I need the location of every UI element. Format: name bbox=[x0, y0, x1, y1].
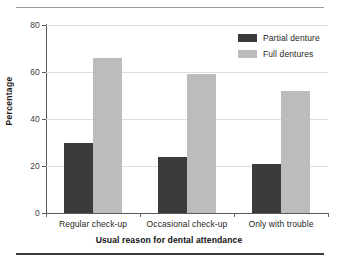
x-axis-line bbox=[46, 213, 329, 214]
bar-full-2 bbox=[281, 91, 310, 213]
y-tick-label-wrap: 20 bbox=[0, 161, 40, 172]
top-divider-rule bbox=[16, 7, 324, 8]
y-tick-label: 60 bbox=[14, 67, 40, 77]
x-category-label-0: Regular check-up bbox=[46, 219, 140, 229]
bar-chart-figure: 020406080 Percentage Regular check-upOcc… bbox=[0, 0, 338, 261]
legend-swatch-icon bbox=[238, 34, 257, 42]
y-tick-label-wrap: 80 bbox=[0, 20, 40, 31]
y-tick-label: 40 bbox=[14, 114, 40, 124]
y-tick-label: 20 bbox=[14, 161, 40, 171]
y-axis-title: Percentage bbox=[4, 77, 14, 126]
y-tick-label-wrap: 0 bbox=[0, 208, 40, 219]
x-tick-mark bbox=[328, 213, 329, 217]
legend-item-1: Full dentures bbox=[238, 47, 320, 60]
legend-label: Full dentures bbox=[263, 49, 313, 59]
legend-label: Partial denture bbox=[263, 33, 320, 43]
bar-partial-0 bbox=[64, 143, 93, 214]
x-tick-mark bbox=[234, 213, 235, 217]
legend-swatch-icon bbox=[238, 50, 257, 58]
y-tick-label: 0 bbox=[14, 208, 40, 218]
x-category-label-2: Only with trouble bbox=[234, 219, 328, 229]
x-tick-mark bbox=[46, 213, 47, 217]
legend-item-0: Partial denture bbox=[238, 31, 320, 44]
bar-partial-2 bbox=[252, 164, 281, 213]
x-category-label-1: Occasional check-up bbox=[140, 219, 234, 229]
bar-partial-1 bbox=[158, 157, 187, 213]
x-tick-mark bbox=[140, 213, 141, 217]
chart-legend: Partial dentureFull dentures bbox=[238, 31, 320, 63]
y-tick-label: 80 bbox=[14, 20, 40, 30]
x-axis-title: Usual reason for dental attendance bbox=[0, 235, 338, 245]
bottom-divider-rule bbox=[16, 253, 324, 255]
bar-full-0 bbox=[93, 58, 122, 213]
bar-full-1 bbox=[187, 74, 216, 213]
